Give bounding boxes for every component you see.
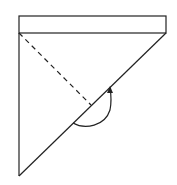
top-strip [19,16,166,33]
fold-diagram [0,0,177,185]
diagram-svg [0,0,177,185]
fold-arrow-arc [73,88,111,126]
dashed-fold-line [19,33,91,105]
